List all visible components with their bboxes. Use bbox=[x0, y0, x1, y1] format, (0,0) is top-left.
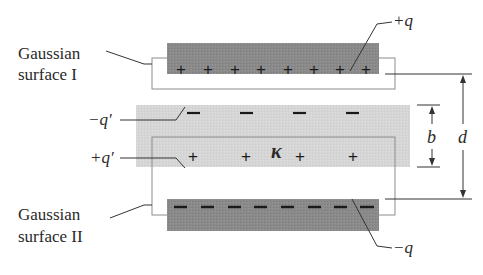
b-label: b bbox=[427, 127, 436, 147]
plus-sign: + bbox=[335, 60, 345, 79]
gaussian-surface-2-label-line2: surface II bbox=[18, 227, 83, 246]
gaussian-surface-1-label: Gaussian bbox=[18, 44, 81, 63]
plus-sign: + bbox=[361, 60, 371, 79]
gaussian-surface-2-label: Gaussian bbox=[18, 205, 81, 224]
plus-q-prime-label: +q′ bbox=[90, 148, 114, 167]
plus-sign: + bbox=[256, 60, 266, 79]
minus-q-label: −q bbox=[393, 238, 413, 257]
plus-sign: + bbox=[295, 147, 305, 166]
leader-gaussian-2 bbox=[110, 205, 152, 218]
plus-sign: + bbox=[203, 60, 213, 79]
plus-sign: + bbox=[241, 147, 251, 166]
plus-sign: + bbox=[348, 147, 358, 166]
arrow-down-icon bbox=[429, 158, 435, 166]
gaussian-surface-1-label-line2: surface I bbox=[18, 65, 77, 84]
arrow-up-icon bbox=[429, 106, 435, 114]
arrow-up-icon bbox=[460, 75, 466, 83]
d-label: d bbox=[458, 127, 468, 147]
leader-gaussian-1 bbox=[106, 51, 152, 64]
kappa-label: κ bbox=[271, 140, 282, 162]
capacitor-dielectric-diagram: + + + + + + + + + + + + κ bbox=[0, 0, 483, 275]
plus-sign: + bbox=[309, 60, 319, 79]
plus-sign: + bbox=[176, 60, 186, 79]
plus-q-label: +q bbox=[393, 11, 413, 30]
plus-sign: + bbox=[230, 60, 240, 79]
arrow-down-icon bbox=[460, 190, 466, 198]
minus-q-prime-label: −q′ bbox=[88, 110, 112, 129]
plus-sign: + bbox=[283, 60, 293, 79]
plus-sign: + bbox=[188, 147, 198, 166]
